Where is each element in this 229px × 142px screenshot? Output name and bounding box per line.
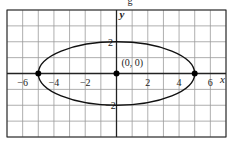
x-tick-label: −6 xyxy=(17,77,28,88)
point-label: (0, 0) xyxy=(122,57,144,69)
top-caption-fragment: g xyxy=(128,0,133,6)
point-marker xyxy=(114,71,120,77)
point-marker xyxy=(35,71,41,77)
x-tick-label: 6 xyxy=(208,77,213,88)
y-axis-label: y xyxy=(118,8,125,20)
x-tick-label: −4 xyxy=(49,77,60,88)
point-marker xyxy=(192,71,198,77)
ellipse-graph: g −6−4−22462−2 (0, 0) x y xyxy=(0,0,229,142)
x-axis-label: x xyxy=(219,73,225,85)
x-tick-label: 2 xyxy=(145,77,150,88)
x-tick-label: −2 xyxy=(80,77,91,88)
x-tick-label: 4 xyxy=(177,77,182,88)
